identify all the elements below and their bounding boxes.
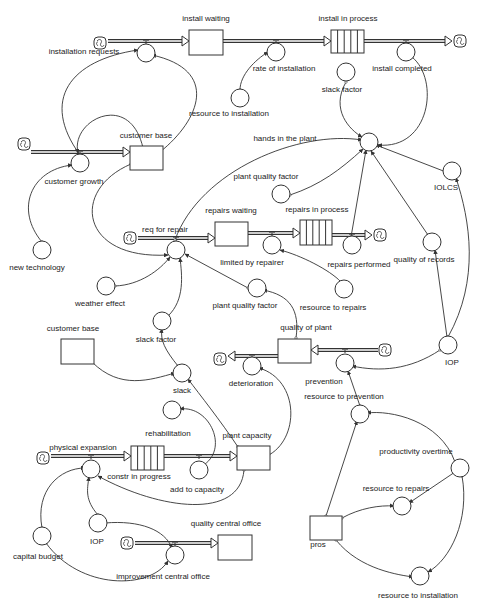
flow-arrowhead-icon <box>293 228 300 238</box>
converter-resource-to-repairs-top[interactable] <box>335 280 353 298</box>
converter-hands-in-the-plant[interactable] <box>360 133 378 151</box>
stock-customer-base-2[interactable] <box>61 339 94 364</box>
converter-resource-to-repairs-bottom[interactable] <box>393 497 411 515</box>
stock-repairs-in-process[interactable] <box>300 220 332 245</box>
flow-pipe <box>164 451 237 461</box>
connector-arrow <box>41 468 85 528</box>
connector-arrow <box>371 151 428 235</box>
stock-install-waiting[interactable] <box>189 30 223 55</box>
connector-arrow <box>92 362 175 381</box>
converter-limited-by-repairer-label: limited by repairer <box>220 258 284 267</box>
converter-improvement-central-office[interactable] <box>166 546 184 564</box>
converter-productivity-overtime[interactable] <box>451 459 469 477</box>
flow-arrowhead-icon <box>208 233 215 243</box>
stock-quality-central-office[interactable] <box>218 535 252 560</box>
flow-arrowhead-icon <box>324 36 331 46</box>
stock-pros[interactable] <box>310 516 342 540</box>
connector-arrow <box>326 421 357 516</box>
stock-install-in-process-label: install in process <box>318 14 377 23</box>
converter-IOLCS-label: IOLCS <box>434 183 458 192</box>
cloud-icon <box>18 138 30 150</box>
converter-plant-quality-factor-top[interactable] <box>272 185 290 203</box>
converter-resource-to-repairs-bottom-label: resource to repairs <box>363 484 430 493</box>
converter-rehabilitation[interactable] <box>163 401 181 419</box>
cloud-icon <box>37 452 49 464</box>
converter-installation-requests-flow[interactable] <box>137 44 155 62</box>
stock-customer-base[interactable] <box>130 146 163 170</box>
stock-plant-capacity-label: plant capacity <box>223 431 272 440</box>
converter-resource-to-installation-top[interactable] <box>231 89 249 107</box>
converter-hands-in-the-plant-label: hands in the plant <box>253 134 316 143</box>
converter-deterioration-label: deterioration <box>229 379 273 388</box>
converter-IOP-right-label: IOP <box>445 358 459 367</box>
connector-arrow <box>376 145 446 172</box>
converter-quality-of-records-label: quality of records <box>394 255 455 264</box>
flow-arrowhead-icon <box>228 351 235 361</box>
stock-quality-central-office-label: quality central office <box>191 519 262 528</box>
converter-deterioration[interactable] <box>243 357 261 375</box>
connector-arrow <box>115 257 170 286</box>
stock-repairs-waiting[interactable] <box>215 222 248 246</box>
converter-physical-expansion[interactable] <box>82 460 100 478</box>
converter-rate-of-installation[interactable] <box>267 43 285 61</box>
cloud-icon <box>214 353 226 365</box>
converter-IOP-bottom[interactable] <box>89 514 107 532</box>
converter-quality-of-records[interactable] <box>423 233 441 251</box>
stock-install-in-process[interactable] <box>331 30 364 53</box>
converter-IOLCS[interactable] <box>443 162 461 180</box>
converter-prevention[interactable] <box>336 354 354 372</box>
stock-quality-of-plant-label: quality of plant <box>280 323 332 332</box>
connector-arrow <box>351 150 366 237</box>
connector-arrow <box>168 258 182 316</box>
converter-slack-factor-top[interactable] <box>337 63 355 81</box>
converter-resource-to-installation-bottom[interactable] <box>411 567 429 585</box>
converter-slack-factor-mid[interactable] <box>153 312 171 330</box>
converter-plant-quality-factor-mid-label: plant quality factor <box>213 301 278 310</box>
converter-productivity-overtime-label: productivity overtime <box>379 447 452 456</box>
converter-add-to-capacity[interactable] <box>190 461 208 479</box>
connector-arrow <box>342 506 394 518</box>
converter-slack[interactable] <box>173 364 191 382</box>
system-dynamics-diagram: install waitinginstall in processcustome… <box>0 0 482 602</box>
stock-plant-capacity[interactable] <box>237 446 270 470</box>
converter-customer-growth-label: customer growth <box>44 177 103 186</box>
converter-resource-to-installation-top-label: resource to installation <box>189 109 269 118</box>
converter-resource-to-prevention[interactable] <box>351 405 369 423</box>
stock-pros-label: pros <box>310 540 326 549</box>
converter-rehabilitation-label: rehabilitation <box>145 429 190 438</box>
stock-repairs-waiting-label: repairs waiting <box>205 206 257 215</box>
converter-prevention-label: prevention <box>305 377 342 386</box>
stock-install-waiting-label: install waiting <box>182 14 230 23</box>
converter-new-technology[interactable] <box>33 241 51 259</box>
stock-quality-of-plant[interactable] <box>278 339 311 363</box>
cloud-icon <box>379 344 391 356</box>
converter-resource-to-repairs-top-label: resource to repairs <box>300 303 367 312</box>
stock-constr-in-progress[interactable] <box>131 446 164 470</box>
stock-customer-base-label: customer base <box>120 131 172 140</box>
converter-IOP-right[interactable] <box>439 336 457 354</box>
converter-plant-quality-factor-top-label: plant quality factor <box>234 172 299 181</box>
connector-arrow <box>290 149 363 195</box>
flow-arrowhead-icon <box>211 538 218 548</box>
converter-capital-budget[interactable] <box>33 527 51 545</box>
converter-slack-factor-top-label: slack factor <box>322 85 362 94</box>
converter-plant-quality-factor-mid[interactable] <box>248 279 266 297</box>
converter-limited-by-repairer[interactable] <box>263 236 281 254</box>
stock-customer-base-2-label: customer base <box>47 324 99 333</box>
converter-customer-growth[interactable] <box>71 154 89 172</box>
connector-arrow <box>428 476 464 572</box>
converter-add-to-capacity-label: add to capacity <box>170 485 224 494</box>
converter-installation-requests-flow-label: installation requests <box>49 47 120 56</box>
converter-weather-effect[interactable] <box>97 277 115 295</box>
converter-req-for-repair-label: req for repair <box>142 225 188 234</box>
flow-arrowhead-icon <box>124 451 131 461</box>
converter-req-for-repair[interactable] <box>167 241 185 259</box>
converter-resource-to-installation-bottom-label: resource to installation <box>378 591 458 600</box>
cloud-icon <box>124 232 136 244</box>
converter-install-completed[interactable] <box>397 43 415 61</box>
converter-repairs-performed[interactable] <box>343 236 361 254</box>
converter-IOP-bottom-label: IOP <box>90 537 104 546</box>
cloud-icon <box>454 35 466 47</box>
flow-arrowhead-icon <box>445 36 452 46</box>
connector-arrow <box>352 350 440 369</box>
